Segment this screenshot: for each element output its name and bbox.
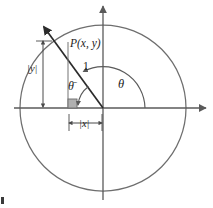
theta-arc bbox=[84, 67, 146, 108]
reference-angle-arc bbox=[78, 87, 89, 106]
diagram-canvas: P(x, y) 1 θ θ̄ |y| |x| bbox=[0, 0, 213, 208]
corner-mark bbox=[1, 197, 4, 204]
reference-angle-label: θ̄ bbox=[68, 79, 77, 93]
theta-label: θ bbox=[118, 77, 124, 91]
right-angle-marker bbox=[68, 99, 77, 108]
radius-length-label: 1 bbox=[83, 60, 89, 72]
point-p-label: P(x, y) bbox=[69, 37, 101, 50]
abs-x-label: |x| bbox=[79, 118, 89, 129]
unit-circle-figure: P(x, y) 1 θ θ̄ |y| |x| bbox=[0, 0, 213, 208]
abs-y-label: |y| bbox=[27, 63, 37, 74]
